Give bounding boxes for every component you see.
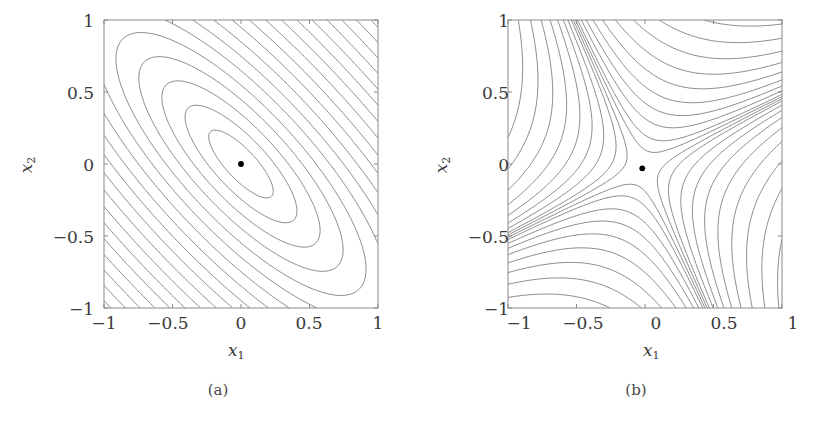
contour-line	[645, 273, 676, 308]
contour-line	[508, 20, 523, 138]
panel-a: 1 0.5 0 −0.5 −1 −1 −0.5 0 0.5 1 x1 x2 (a…	[0, 0, 411, 430]
contour-line	[508, 209, 645, 244]
contour-line	[104, 173, 233, 308]
ytick-label-a-3: −0.5	[40, 227, 94, 247]
contour-line	[710, 110, 782, 164]
xaxis-title-b-text: x	[643, 340, 653, 360]
contour-line	[615, 20, 645, 50]
ytick-label-b-3: −0.5	[455, 227, 509, 247]
contour-line	[705, 164, 726, 308]
contour-line	[241, 100, 302, 164]
contour-line	[207, 164, 241, 199]
contour-line	[704, 20, 782, 26]
contour-line	[593, 20, 645, 87]
xtick-label-a-0: −1	[79, 313, 129, 333]
contour-line	[162, 81, 241, 164]
contour-line	[508, 248, 645, 273]
contour-lines	[508, 20, 782, 308]
contour-line	[104, 84, 152, 164]
contour-line	[344, 164, 378, 215]
contour-line	[312, 20, 378, 89]
ytick-label-b-1: 0.5	[461, 83, 509, 103]
contour-line	[241, 42, 357, 164]
xtick-label-b-0: −1	[494, 313, 544, 333]
contour-line	[241, 164, 366, 295]
contour-line	[125, 164, 241, 286]
contour-line	[152, 164, 241, 257]
contour-line	[645, 94, 782, 140]
contour-line	[180, 164, 241, 228]
contour-line	[645, 50, 782, 74]
contour-line	[232, 20, 241, 27]
xtick-label-b-4: 1	[768, 313, 818, 333]
plot-frame	[508, 20, 782, 308]
contour-line	[680, 101, 782, 164]
axis-ticks	[508, 20, 782, 308]
contour-line	[645, 30, 782, 59]
contour-line	[116, 33, 241, 164]
yaxis-title-b-sub: 2	[440, 157, 453, 164]
contour-line	[718, 164, 743, 308]
contour-line	[778, 239, 782, 308]
contour-line	[297, 20, 378, 105]
contour-line	[645, 206, 703, 308]
contour-line	[508, 262, 645, 291]
contour-line	[508, 196, 645, 240]
critical-point-marker	[639, 165, 645, 171]
contour-line	[104, 270, 140, 308]
contour-line	[762, 189, 782, 308]
contour-line	[104, 223, 185, 308]
contour-line	[241, 257, 317, 308]
contour-line	[241, 144, 260, 164]
xtick-label-a-1: −0.5	[140, 313, 196, 333]
contour-line	[241, 27, 371, 164]
yaxis-title-a-sub: 2	[25, 157, 38, 164]
contour-line	[508, 234, 645, 255]
contour-line	[104, 135, 125, 164]
contour-line	[732, 164, 761, 308]
xtick-label-a-3: 0.5	[284, 313, 334, 333]
contour-line	[165, 20, 241, 71]
yaxis-title-a: x2	[16, 153, 36, 177]
contour-plot-b	[411, 0, 822, 430]
contour-line	[249, 20, 378, 155]
contour-line	[185, 105, 241, 164]
contour-line	[327, 20, 378, 74]
contour-line	[726, 118, 782, 164]
contour-line	[666, 99, 782, 164]
contour-line	[645, 97, 782, 153]
contour-line	[111, 164, 241, 301]
contour-line	[241, 164, 273, 198]
contour-line	[330, 164, 378, 244]
panel-b: 1 0.5 0 −0.5 −1 −1 −0.5 0 0.5 1 x1 x2 (b…	[411, 0, 822, 430]
contour-line	[573, 20, 627, 164]
contour-line	[104, 301, 111, 308]
xaxis-title-b-sub: 1	[653, 349, 660, 362]
ytick-label-a-2: 0	[58, 155, 94, 175]
contour-line	[214, 20, 241, 42]
xaxis-title-a-text: x	[228, 340, 238, 360]
contour-line	[104, 207, 201, 308]
yaxis-title-b: x2	[431, 153, 451, 177]
ytick-label-a-0: 1	[58, 11, 94, 31]
contour-line	[645, 291, 662, 308]
xaxis-title-a-sub: 1	[238, 349, 245, 362]
contour-line	[645, 69, 782, 89]
contour-line	[695, 105, 782, 164]
contour-line	[241, 56, 344, 164]
xtick-label-a-4: 1	[353, 313, 403, 333]
contour-line	[193, 20, 241, 56]
contour-line	[508, 164, 612, 233]
contour-line	[357, 20, 378, 43]
yaxis-title-b-text: x	[431, 164, 451, 174]
contour-line	[508, 294, 610, 308]
contour-line	[241, 71, 330, 164]
contour-line	[508, 278, 641, 308]
contour-line	[371, 164, 378, 173]
contour-line	[241, 286, 268, 308]
contour-line	[222, 164, 241, 184]
caption-b: (b)	[596, 381, 676, 399]
contour-line	[668, 164, 709, 308]
contour-line	[508, 164, 581, 223]
contour-line	[645, 80, 782, 103]
